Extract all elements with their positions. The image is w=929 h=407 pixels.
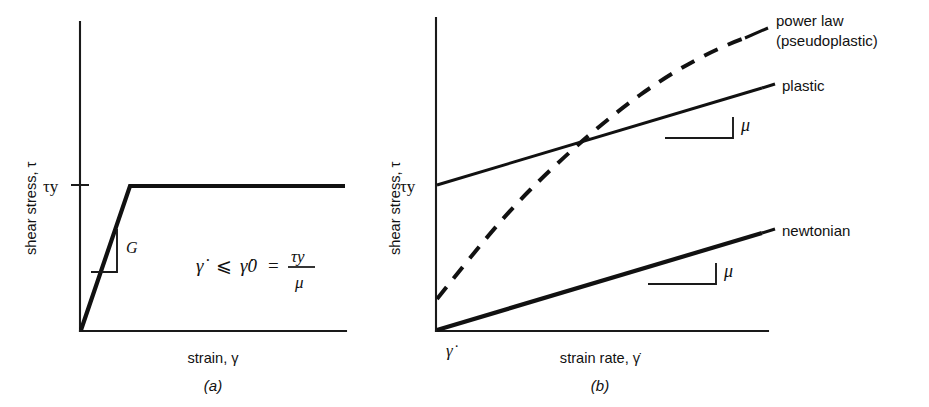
panel-b-newtonian-slope-label: μ xyxy=(723,261,733,281)
panel-b-plastic-slope-label: μ xyxy=(740,115,750,135)
panel-b-origin-label: γ̇ xyxy=(446,341,458,360)
panel-a-eqn-mid: γ̇0 xyxy=(240,255,257,276)
rheology-figure: shear stress, τ τy G γ̇ ⩽ γ̇0 = τy μ str… xyxy=(0,0,929,407)
panel-a-equation: γ̇ ⩽ γ̇0 = τy μ xyxy=(196,247,315,292)
panel-b-legend-power-law-line2: (pseudoplastic) xyxy=(776,32,878,49)
panel-a-eqn-numerator: τy xyxy=(291,247,305,266)
panel-a-ylabel-group: shear stress, τ xyxy=(23,161,39,255)
panel-b-plastic-slope-triangle xyxy=(665,117,733,138)
panel-b: shear stress, τ τy γ̇ μ μ power law (pse… xyxy=(387,12,878,394)
panel-b-legend-power-law-line1: power law xyxy=(776,12,844,29)
panel-a-eqn-relation: ⩽ xyxy=(216,255,232,276)
panel-b-tau-y-label: τy xyxy=(400,177,416,196)
panel-b-legend-newtonian: newtonian xyxy=(782,222,850,239)
panel-a-eqn-equals: = xyxy=(268,255,279,276)
panel-a: shear stress, τ τy G γ̇ ⩽ γ̇0 = τy μ str… xyxy=(23,22,346,394)
panel-b-ylabel-group: shear stress, τ xyxy=(387,161,403,255)
panel-a-eqn-denominator: μ xyxy=(294,273,304,292)
panel-b-legend-plastic: plastic xyxy=(782,77,825,94)
panel-b-xlabel: strain rate, γ̇ xyxy=(560,350,641,366)
panel-b-legend-leader-newtonian xyxy=(762,229,775,233)
panel-b-power-law-curve xyxy=(437,38,745,299)
panel-a-eqn-lhs: γ̇ xyxy=(196,255,209,276)
figure-root: shear stress, τ τy G γ̇ ⩽ γ̇0 = τy μ str… xyxy=(0,0,929,407)
panel-a-ideal-plastic-curve xyxy=(81,186,345,330)
panel-b-legend-leader-plastic xyxy=(762,84,775,88)
panel-b-legend-leader-power-law xyxy=(745,28,768,38)
panel-a-ylabel: shear stress, τ xyxy=(23,161,39,255)
panel-a-tau-y-label: τy xyxy=(43,177,59,196)
panel-a-caption: (a) xyxy=(204,377,222,394)
panel-b-ylabel: shear stress, τ xyxy=(387,161,403,255)
panel-a-slope-label: G xyxy=(126,239,138,256)
panel-b-caption: (b) xyxy=(591,377,609,394)
panel-b-newtonian-line xyxy=(437,233,762,330)
panel-b-plastic-line xyxy=(437,88,762,185)
panel-a-xlabel: strain, γ xyxy=(187,350,239,366)
